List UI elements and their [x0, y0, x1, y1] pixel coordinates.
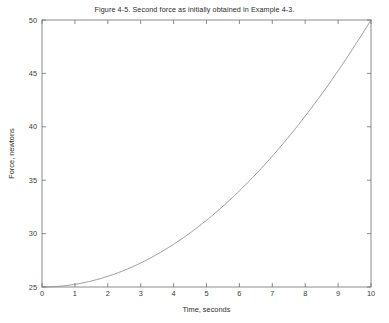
x-axis-title: Time, seconds [183, 305, 231, 314]
plot-area: 0 1 2 3 4 5 6 7 8 9 10 25 30 35 40 45 50… [0, 0, 389, 323]
y-axis-title: Force, newtons [7, 128, 16, 179]
x-tick-label: 5 [204, 289, 208, 298]
x-tick-label: 4 [172, 289, 176, 298]
figure-container: Figure 4-5. Second force as initially ob… [0, 0, 389, 323]
x-tick-label: 0 [40, 289, 44, 298]
y-tick-labels: 25 30 35 40 45 50 [29, 16, 37, 292]
force-curve [42, 20, 371, 287]
y-axis-ticks-right [367, 20, 371, 287]
y-tick-label: 35 [29, 176, 37, 185]
x-tick-labels: 0 1 2 3 4 5 6 7 8 9 10 [40, 289, 375, 298]
x-axis-ticks [42, 283, 371, 287]
y-axis-ticks [42, 20, 46, 287]
y-tick-label: 40 [29, 122, 37, 131]
x-tick-label: 1 [73, 289, 77, 298]
x-tick-label: 8 [303, 289, 307, 298]
y-tick-label: 30 [29, 229, 37, 238]
x-axis-ticks-top [42, 20, 371, 24]
y-tick-label: 45 [29, 69, 37, 78]
x-tick-label: 9 [336, 289, 340, 298]
x-tick-label: 10 [367, 289, 375, 298]
x-tick-label: 7 [270, 289, 274, 298]
y-tick-label: 25 [29, 283, 37, 292]
axes-frame [42, 20, 371, 287]
y-tick-label: 50 [29, 16, 37, 25]
x-tick-label: 2 [106, 289, 110, 298]
x-tick-label: 3 [139, 289, 143, 298]
x-tick-label: 6 [237, 289, 241, 298]
